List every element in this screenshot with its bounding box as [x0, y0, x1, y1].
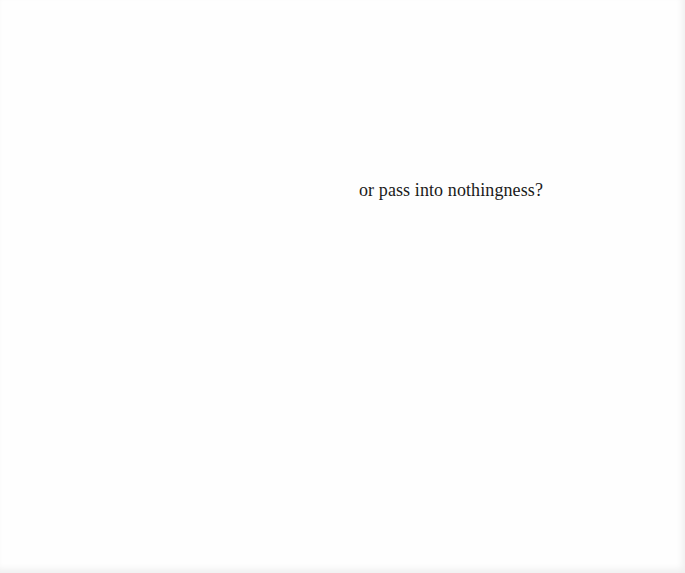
- verse-line: or pass into nothingness?: [359, 179, 543, 201]
- document-page: or pass into nothingness?: [0, 0, 685, 573]
